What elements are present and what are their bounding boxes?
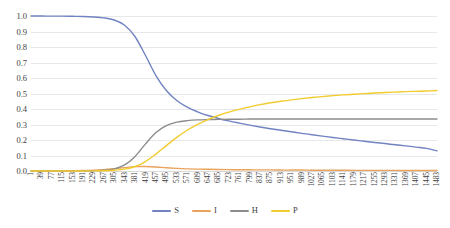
x-axis-tick-label: 457 [152,172,160,183]
legend-item-I[interactable]: I [192,206,217,215]
x-axis-tick-label: 1103 [329,172,337,186]
y-axis-tick-label: 1.0 [16,12,27,21]
legend-item-S[interactable]: S [152,206,179,215]
legend-color-swatch [230,210,249,212]
x-axis-tick-label: 229 [89,172,97,183]
x-axis-tick-label: 1407 [412,172,420,187]
legend-label: P [293,206,298,215]
x-axis-tick-label: 343 [121,172,129,183]
legend-label: S [174,206,179,215]
x-axis-tick-label: 761 [235,172,243,183]
x-axis-tick-label: 381 [131,172,139,183]
legend-item-P[interactable]: P [271,206,298,215]
x-axis-tick-label: 1141 [339,172,347,186]
y-axis-tick-label: 0.4 [16,105,27,114]
x-axis-tick-label: 1331 [391,172,399,187]
legend-label: I [214,206,217,215]
x-axis-tick-label: 153 [69,172,77,183]
x-axis-tick-label: 1445 [423,172,431,187]
x-axis-tick-label: 1293 [381,172,389,187]
x-axis-tick-label: 647 [204,172,212,183]
legend-color-swatch [271,210,290,212]
chart-legend: SIHP [0,206,450,215]
x-axis-tick-label: 685 [214,172,222,183]
x-axis-tick-label: 1255 [371,172,379,187]
x-axis-tick-label: 1065 [318,172,326,187]
legend-item-H[interactable]: H [230,206,258,215]
chart-container: 1.00.90.80.70.60.50.40.30.20.10.0 139771… [0,0,450,228]
x-axis-tick-label: 951 [287,172,295,183]
x-axis-tick-label: 1027 [308,172,316,187]
plot-area [31,16,437,171]
y-axis-tick-label: 0.2 [16,136,27,145]
series-line-P [31,91,437,171]
y-axis-tick-label: 0.7 [16,58,27,67]
x-axis-tick-label: 989 [298,172,306,183]
x-axis-tick-label: 495 [162,172,170,183]
x-axis-tick-label: 837 [256,172,264,183]
x-axis: 1397711515319122926730534338141945749553… [31,172,437,206]
y-axis-tick-label: 0.9 [16,27,27,36]
x-axis-tick-label: 571 [183,172,191,183]
x-axis-tick-label: 77 [48,172,56,179]
x-axis-tick-label: 799 [246,172,254,183]
series-layer [31,16,437,171]
y-axis: 1.00.90.80.70.60.50.40.30.20.10.0 [0,0,31,186]
x-axis-tick-label: 913 [277,172,285,183]
y-axis-tick-label: 0.8 [16,43,27,52]
x-axis-tick-label: 419 [142,172,150,183]
y-axis-tick-label: 0.1 [16,151,27,160]
legend-color-swatch [192,210,211,212]
legend-label: H [252,206,258,215]
x-axis-tick-label: 1369 [402,172,410,187]
x-axis-tick-label: 1179 [350,172,358,186]
x-axis-tick-label: 305 [110,172,118,183]
x-axis-tick-label: 609 [194,172,202,183]
x-axis-tick-label: 267 [100,172,108,183]
legend-color-swatch [152,210,171,212]
x-axis-tick-label: 115 [58,172,66,183]
x-axis-tick-label: 875 [266,172,274,183]
x-axis-tick-label: 1217 [360,172,368,187]
x-axis-tick-label: 191 [79,172,87,183]
y-axis-tick-label: 0.3 [16,120,27,129]
x-axis-tick-label: 723 [225,172,233,183]
x-axis-tick-label: 39 [37,172,45,179]
y-axis-tick-label: 0.6 [16,74,27,83]
x-axis-tick-label: 533 [173,172,181,183]
series-line-H [31,119,437,171]
y-axis-tick-label: 0.5 [16,89,27,98]
x-axis-tick-label: 1483 [433,172,441,187]
x-axis-tick-label: 1 [27,172,35,176]
series-line-S [31,16,437,151]
